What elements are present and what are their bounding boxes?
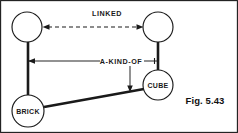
edge-cube-brick xyxy=(44,89,144,107)
edge-label-linked: LINKED xyxy=(92,9,122,18)
node-top-right[interactable] xyxy=(143,12,173,42)
node-label-cube: CUBE xyxy=(147,82,168,89)
arrowhead-linked-left xyxy=(43,24,50,30)
figure-caption: Fig. 5.43 xyxy=(186,95,225,106)
node-top-left[interactable] xyxy=(12,12,42,42)
semantic-network-diagram: LINKED A-KIND-OF BRICK CUBE Fig. 5.43 xyxy=(0,0,238,133)
figure-container: LINKED A-KIND-OF BRICK CUBE Fig. 5.43 xyxy=(0,0,238,133)
node-label-brick: BRICK xyxy=(16,108,40,115)
edge-label-a-kind-of: A-KIND-OF xyxy=(100,57,143,66)
